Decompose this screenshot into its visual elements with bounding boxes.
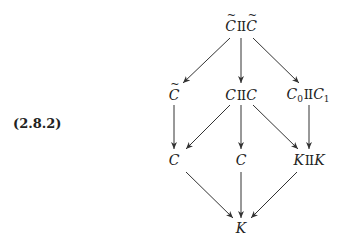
node-row2-right: C0IIC1 xyxy=(286,87,329,104)
node-row2-mid: CIIC xyxy=(225,88,257,102)
arrow-top-to-row2_left xyxy=(183,38,230,83)
node-row2-mid-right-symbol: C xyxy=(246,87,257,103)
subscript: 1 xyxy=(324,94,330,104)
equation-label: (2.8.2) xyxy=(13,116,62,131)
commutative-diagram: (2.8.2) CIIC C CIIC C0IIC1 C C KIIK K xyxy=(0,0,343,245)
node-row3-mid: C xyxy=(236,153,247,167)
node-bottom: K xyxy=(236,221,246,235)
node-bottom-symbol: K xyxy=(236,220,246,236)
node-row3-right: KIIK xyxy=(293,153,324,167)
subscript: 0 xyxy=(297,94,303,104)
node-top-right-symbol: C xyxy=(246,19,257,33)
coproduct-symbol: II xyxy=(305,153,313,168)
node-top: CIIC xyxy=(225,19,257,33)
coproduct-symbol: II xyxy=(237,88,245,103)
node-row2-mid-left-symbol: C xyxy=(225,87,236,103)
node-row3-left: C xyxy=(169,153,180,167)
node-row2-right-left-symbol: C xyxy=(286,86,297,102)
arrow-row2_mid-to-row3_right xyxy=(253,105,298,149)
arrow-row2_mid-to-row3_left xyxy=(186,105,230,149)
node-top-left-symbol: C xyxy=(225,19,236,33)
node-row3-right-left-symbol: K xyxy=(293,152,303,168)
coproduct-symbol: II xyxy=(237,19,245,34)
node-row3-left-symbol: C xyxy=(169,152,180,168)
node-row2-left: C xyxy=(169,88,180,102)
arrow-row3_right-to-bottom xyxy=(251,172,297,218)
coproduct-symbol: II xyxy=(304,87,312,102)
node-row2-right-right-symbol: C xyxy=(313,86,324,102)
arrow-row3_left-to-bottom xyxy=(186,172,233,218)
node-row3-mid-symbol: C xyxy=(236,152,247,168)
arrow-top-to-row2_right xyxy=(253,38,299,83)
node-row3-right-right-symbol: K xyxy=(314,152,324,168)
node-row2-left-symbol: C xyxy=(169,88,180,102)
